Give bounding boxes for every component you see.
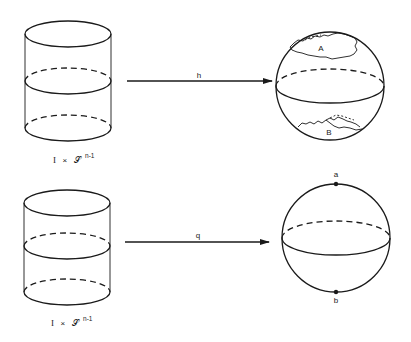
map-label-h: h	[197, 71, 201, 80]
sphere-bottom-outline	[282, 184, 390, 292]
cylinder-bottom-bottom-back	[24, 279, 110, 292]
source-label-top: I × 𝒮 n-1	[53, 149, 95, 166]
cylinder-top-cap	[25, 21, 111, 47]
region-label-B: B	[326, 128, 331, 137]
source-label-bottom: I × 𝒮 n-1	[51, 312, 93, 329]
point-a-marker	[334, 182, 338, 186]
region-B-back-edge	[330, 115, 354, 120]
point-label-a: a	[334, 170, 339, 179]
region-label-A: A	[318, 44, 324, 53]
map-label-q: q	[196, 231, 200, 240]
cylinder-top	[25, 21, 111, 141]
point-label-b: b	[334, 296, 339, 305]
point-b-marker	[334, 290, 338, 294]
diagram-canvas: I × 𝒮 n-1 h A B I × 𝒮 n-1 q	[0, 0, 411, 342]
sphere-top-equator-back	[276, 69, 384, 86]
sphere-bottom-equator-back	[282, 221, 390, 238]
sphere-bottom-equator-front	[282, 238, 390, 255]
cylinder-bottom-bottom-front	[24, 292, 110, 305]
cylinder-top-middle-front	[25, 81, 111, 94]
cylinder-bottom-middle-front	[24, 246, 110, 259]
cylinder-bottom-middle-back	[24, 233, 110, 246]
sphere-top-equator-front	[276, 86, 384, 103]
cylinder-top-middle-back	[25, 68, 111, 81]
sphere-top: A B	[276, 32, 384, 140]
cylinder-top-bottom-back	[25, 115, 111, 128]
cylinder-bottom	[24, 190, 110, 305]
sphere-top-outline	[276, 32, 384, 140]
cylinder-bottom-cap	[24, 190, 110, 216]
cylinder-top-bottom-front	[25, 128, 111, 141]
sphere-bottom: a b	[282, 170, 390, 305]
